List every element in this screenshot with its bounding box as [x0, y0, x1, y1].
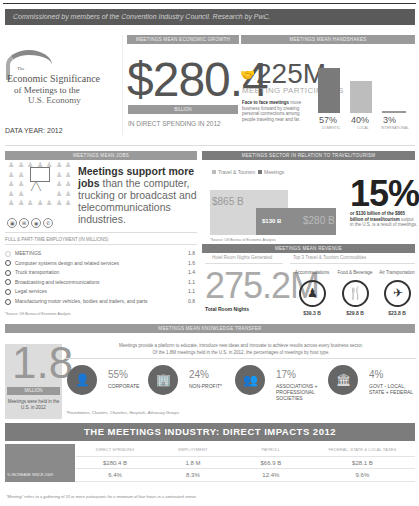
headline-jobs: jobs [78, 177, 100, 189]
meetings-icon [5, 251, 11, 257]
commodity-name: Accommodations [288, 270, 336, 275]
legend-swatch-meetings [258, 170, 262, 174]
row-label: Computer systems design and related serv… [15, 260, 119, 266]
person-icon: ♟ [18, 171, 22, 179]
host-type-percent: 24% [189, 369, 209, 380]
meetings-share-percent: 15% [350, 173, 419, 215]
table-cell: 12.4% [232, 469, 310, 481]
table-cell: $66.9 B [232, 457, 310, 469]
row-label: MEETINGS [15, 250, 41, 256]
group-icon: 👥 [235, 365, 265, 395]
column-header: EMPLOYMENT [154, 444, 232, 456]
row-value: 1.1 [188, 278, 195, 288]
desc-bold: Face to face meetings [242, 100, 289, 105]
impacts-table: DIRECT SPENDING EMPLOYMENT PAYROLL FEDER… [76, 444, 415, 482]
tourism-source: *Source: US Bureau of Economic Analysis [210, 238, 276, 242]
meetings-value: $130 B [262, 218, 281, 224]
person-icon: ♟ [8, 161, 12, 169]
column-header: DIRECT SPENDING [76, 444, 154, 456]
employment-row: Truck transportation1.4 [5, 268, 195, 278]
divider [5, 145, 415, 146]
meetings-count-description: Meetings were held in the U.S. in 2012 [7, 399, 60, 410]
person-icon: ♟ [18, 190, 22, 198]
commission-banner: Commissioned by members of the Conventio… [5, 9, 415, 25]
top-rule [3, 3, 416, 4]
host-type-label: CORPORATE [108, 383, 148, 389]
table-row: $280.4 B 1.8 M $66.9 B $28.1 B [76, 457, 415, 470]
government-building-icon: 🏛 [328, 365, 358, 395]
employment-row: Computer systems design and related serv… [5, 259, 195, 269]
logo-the: The [17, 66, 25, 71]
legend-travel: Travel & Tourism [218, 169, 255, 175]
origin-percent: 40% [351, 115, 369, 125]
car-icon [5, 299, 11, 305]
employment-row: MEETINGS1.8 [5, 249, 195, 259]
meeting-definition-footnote: "Meeting" refers to a gathering of 10 or… [6, 494, 197, 499]
origin-percent: 57% [319, 115, 337, 125]
person-icon: ♟ [8, 199, 12, 207]
table-header-row: DIRECT SPENDING EMPLOYMENT PAYROLL FEDER… [76, 444, 415, 457]
broadcast-icon: ◉ [31, 218, 41, 228]
nonprofit-footnote: *Foundations, Charities, Churches, Hospi… [66, 410, 179, 415]
person-icon: ♟ [56, 199, 60, 207]
origin-bar [350, 81, 372, 113]
divider [66, 358, 416, 359]
economic-growth-header: Meetings mean economic growth [127, 35, 239, 44]
knowledge-header: Meetings mean knowledge transfer [5, 324, 415, 333]
person-icon: ♟ [65, 199, 69, 207]
meetings-share-description: or $130 billion of the $865 billion of t… [350, 211, 418, 228]
row-value: 0.8 [188, 297, 195, 307]
table-cell: $280.4 B [76, 457, 154, 469]
divider [205, 263, 283, 264]
headline-bold: Meetings support more [78, 165, 194, 177]
table-row: 6.4% 8.3% 12.4% 9.6% [76, 469, 415, 482]
column-header: PAYROLL [232, 444, 310, 456]
commodity-value: $29.8 B [331, 310, 379, 316]
truck-icon [5, 270, 11, 276]
travel-tourism-value: $865 B [212, 196, 244, 207]
person-icon: ♟ [46, 199, 50, 207]
logo-line2: of Meetings to the [14, 85, 80, 95]
intro-line2: Of the 1.8M meetings held in the U.S. in… [66, 350, 416, 357]
employment-row: Manufacturing motor vehicles, bodies and… [5, 297, 195, 307]
person-icon: ♟ [65, 171, 69, 179]
person-icon: ♟ [8, 171, 12, 179]
column-header: FEDERAL, STATE & LOCAL TAXES [310, 444, 415, 456]
person-icon: ♟ [65, 180, 69, 188]
divider [5, 232, 197, 233]
divider [122, 35, 123, 135]
top3-label: Top 3 Travel & Tourism Commodities [293, 255, 366, 260]
easel-legs-icon: ╱╲ [31, 182, 41, 191]
host-type-percent: 4% [369, 369, 383, 380]
commodity-value: $39.3 B [288, 310, 336, 316]
host-type-percent: 17% [276, 369, 296, 380]
person-icon: ♟ [56, 161, 60, 169]
person-icon: ♟ [18, 161, 22, 169]
person-icon: ♟ [65, 161, 69, 169]
commodity-value: $23.8 B [373, 310, 419, 316]
data-year: DATA YEAR: 2012 [5, 127, 63, 134]
revenue-header: Meetings mean revenue [202, 244, 415, 253]
person-icon: ♟ [8, 180, 12, 188]
divider [290, 263, 415, 264]
legal-icon [5, 289, 11, 295]
person-icon: ♟ [56, 180, 60, 188]
origin-label: Local [348, 126, 378, 130]
handshake-icon: 🤝 [240, 68, 255, 82]
person-icon: ♟ [18, 180, 22, 188]
logo-line3: U.S. Economy [28, 95, 81, 105]
row-value: 1.1 [188, 287, 195, 297]
logo-line1: Economic Significance [7, 73, 100, 84]
table-cell: 6.4% [76, 469, 154, 481]
handshakes-header: Meetings mean handshakes [241, 35, 415, 44]
row-label: Broadcasting and telecommunications [15, 279, 100, 285]
person-icon: ♟ [56, 171, 60, 179]
tourism-legend: Travel & Tourism Meetings [212, 169, 284, 175]
meetings-count: 1.8 [12, 338, 73, 388]
table-cell: 8.3% [154, 469, 232, 481]
phone-icon: ✆ [43, 218, 53, 228]
jobs-header: Meetings mean jobs [5, 151, 197, 160]
computer-icon [5, 260, 11, 266]
fork-knife-icon: 🍴 [342, 280, 369, 307]
employment-source: *Source: US Bureau of Economic Analysis [5, 312, 71, 316]
